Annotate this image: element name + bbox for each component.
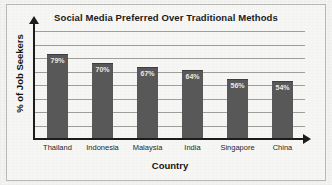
bar-value-label: 64% xyxy=(185,73,199,81)
x-tick-label: Singapore xyxy=(215,143,260,152)
bar: 67% xyxy=(137,67,158,139)
y-axis-line xyxy=(33,23,35,140)
bar: 64% xyxy=(182,70,203,139)
bar-slot: 54% xyxy=(260,31,305,139)
x-tick-label: India xyxy=(170,143,215,152)
bar-slot: 79% xyxy=(35,31,80,139)
bar-value-label: 54% xyxy=(275,84,289,92)
bar: 54% xyxy=(272,81,293,139)
chart-title: Social Media Preferred Over Traditional … xyxy=(0,12,332,23)
bar: 70% xyxy=(92,63,113,139)
bar-value-label: 67% xyxy=(140,70,154,78)
y-axis-title: % of Job Seekers xyxy=(14,19,25,129)
bar-slot: 70% xyxy=(80,31,125,139)
bar: 56% xyxy=(227,79,248,139)
x-tick-label: Thailand xyxy=(35,143,80,152)
y-axis-arrow-icon xyxy=(29,16,39,24)
x-axis-title: Country xyxy=(35,160,305,171)
bar-value-label: 70% xyxy=(95,66,109,74)
bar-slot: 64% xyxy=(170,31,215,139)
x-tick-label: Malaysia xyxy=(125,143,170,152)
x-axis-tick-labels: ThailandIndonesiaMalaysiaIndiaSingaporeC… xyxy=(35,143,305,152)
bar-slot: 67% xyxy=(125,31,170,139)
x-tick-label: Indonesia xyxy=(80,143,125,152)
x-axis-line xyxy=(33,138,305,140)
bar-value-label: 56% xyxy=(230,82,244,90)
bar: 79% xyxy=(47,54,68,139)
x-tick-label: China xyxy=(260,143,305,152)
bar-series: 79%70%67%64%56%54% xyxy=(35,31,305,139)
bar-value-label: 79% xyxy=(50,57,64,65)
plot-area: 79%70%67%64%56%54% xyxy=(35,31,305,139)
chart-image: Social Media Preferred Over Traditional … xyxy=(0,0,332,185)
bar-slot: 56% xyxy=(215,31,260,139)
